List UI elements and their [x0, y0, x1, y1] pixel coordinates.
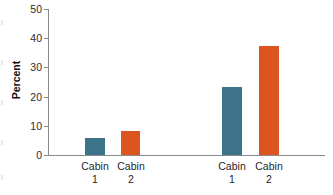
chart-screenshot: Percent 0 10 20 30 40 50 Cabin 1 Cabin 2: [0, 0, 333, 195]
bar-chart: Percent 0 10 20 30 40 50 Cabin 1 Cabin 2: [0, 0, 333, 195]
y-tick-20: [44, 97, 49, 98]
category-label-line1: Cabin: [255, 160, 282, 172]
y-tick-label-50: 50: [16, 4, 42, 15]
y-tick-50: [44, 9, 49, 10]
y-tick-label-20: 20: [16, 92, 42, 103]
y-tick-10: [44, 126, 49, 127]
category-label-line1: Cabin: [117, 160, 144, 172]
y-tick-30: [44, 67, 49, 68]
category-label-line1: Cabin: [218, 160, 245, 172]
bar-group2-cabin2: [259, 46, 279, 156]
scan-artifact: [1, 20, 3, 25]
y-tick-label-0: 0: [16, 150, 42, 161]
bar-group1-cabin2: [121, 131, 140, 155]
category-label-group1-cabin2: Cabin 2: [106, 160, 156, 186]
category-label-line2: 2: [106, 173, 156, 186]
y-tick-label-40: 40: [16, 33, 42, 44]
category-label-line2: 2: [244, 173, 294, 186]
y-tick-0: [44, 155, 49, 156]
scan-artifact: [1, 100, 3, 105]
y-tick-label-30: 30: [16, 62, 42, 73]
bar-group1-cabin1: [85, 138, 105, 155]
category-label-line1: Cabin: [81, 160, 108, 172]
bar-group2-cabin1: [222, 87, 242, 155]
scan-artifact: [1, 60, 3, 65]
category-label-group2-cabin2: Cabin 2: [244, 160, 294, 186]
y-axis-line: [48, 9, 49, 156]
scan-artifact: [1, 175, 3, 180]
y-tick-label-10: 10: [16, 121, 42, 132]
x-axis-line: [48, 155, 325, 156]
scan-artifact: [1, 140, 3, 145]
y-tick-40: [44, 38, 49, 39]
